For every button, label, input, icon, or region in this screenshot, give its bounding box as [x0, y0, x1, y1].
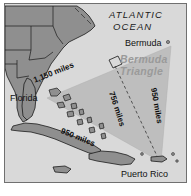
place-label-florida: Florida: [10, 94, 38, 103]
triangle-name-line2: Triangle: [120, 66, 168, 78]
ocean-label-ocean: OCEAN: [113, 22, 152, 32]
triangle-name-label: Bermuda Triangle: [120, 54, 168, 78]
place-label-puerto-rico: Puerto Rico: [121, 170, 168, 179]
place-label-bermuda: Bermuda: [125, 39, 162, 48]
triangle-name-line1: Bermuda: [120, 54, 168, 66]
ocean-label-atlantic: ATLANTIC: [109, 10, 163, 20]
bermuda-triangle-map: ATLANTIC OCEAN Bermuda Bermuda Triangle …: [4, 3, 187, 183]
